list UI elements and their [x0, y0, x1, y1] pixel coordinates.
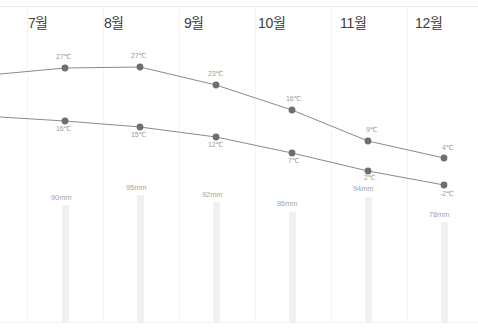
high-temp-label: 23℃ [208, 70, 223, 78]
low-temp-dot [289, 150, 296, 157]
high-temp-dot [62, 65, 69, 72]
low-temp-label: -2℃ [440, 190, 454, 198]
high-temp-label: 4℃ [442, 144, 454, 152]
low-temp-label: 7℃ [288, 157, 300, 165]
high-temp-label: 9℃ [366, 126, 378, 134]
low-temp-dot [441, 182, 448, 189]
low-temp-label: 16℃ [56, 125, 71, 133]
high-temp-dot [441, 155, 448, 162]
low-temp-label: 12℃ [208, 141, 223, 149]
weather-trend-chart: 7월 8월 9월 10월 11월 12월 90mm 95mm 92mm 86mm… [0, 0, 478, 332]
high-temp-dot [289, 107, 296, 114]
high-temp-dot [213, 82, 220, 89]
temperature-lines [0, 0, 478, 332]
high-temp-label: 27℃ [131, 52, 146, 60]
high-temp-label: 27℃ [56, 53, 71, 61]
low-temp-dot [137, 124, 144, 131]
low-temp-label: 15℃ [131, 131, 146, 139]
low-temp-dot [62, 118, 69, 125]
low-temp-dot [213, 134, 220, 141]
chart-bottom-divider [0, 322, 478, 323]
high-temp-dot [365, 138, 372, 145]
low-temp-label: 2℃ [364, 174, 376, 182]
high-temp-label: 16℃ [286, 95, 301, 103]
high-temp-dot [137, 64, 144, 71]
